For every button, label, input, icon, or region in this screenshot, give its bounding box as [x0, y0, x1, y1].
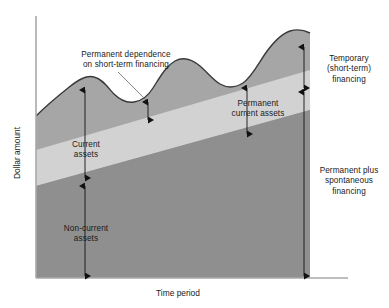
x-axis-title: Time period: [128, 288, 228, 298]
financing-area-chart: [0, 0, 389, 308]
temporary-financing-label: Temporary (short-term) financing: [312, 54, 386, 85]
permanent-current-assets-label: Permanent current assets: [222, 99, 294, 120]
figure-container: Dollar amount Time period Permanent depe…: [0, 0, 389, 308]
current-assets-label: Current assets: [60, 140, 112, 161]
y-axis-title: Dollar amount: [12, 113, 22, 193]
noncurrent-assets-label: Non-current assets: [50, 224, 122, 245]
callout-label: Permanent dependence on short-term finan…: [56, 50, 196, 71]
permanent-plus-spontaneous-label: Permanent plus spontaneous financing: [310, 166, 388, 197]
